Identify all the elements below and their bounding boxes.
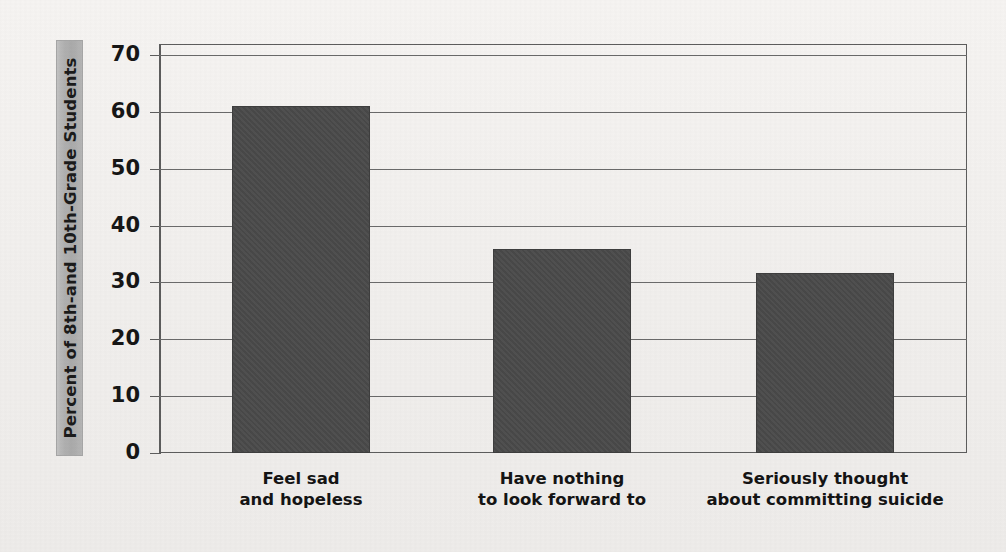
y-tick-50 bbox=[150, 169, 159, 170]
y-tick-10 bbox=[150, 396, 159, 397]
bar-3 bbox=[756, 273, 894, 453]
y-tick-20 bbox=[150, 339, 159, 340]
category-label-2: Have nothing to look forward to bbox=[412, 468, 712, 510]
bar-1 bbox=[232, 106, 370, 453]
y-axis-title: Percent of 8th-and 10th-Grade Students bbox=[60, 57, 79, 438]
y-tick-60 bbox=[150, 112, 159, 113]
category-label-1: Feel sad and hopeless bbox=[151, 468, 451, 510]
y-tick-label-70: 70 bbox=[96, 44, 140, 65]
y-tick-0 bbox=[150, 453, 159, 454]
y-tick-label-20: 20 bbox=[96, 328, 140, 349]
y-tick-label-50: 50 bbox=[96, 158, 140, 179]
y-tick-label-60: 60 bbox=[96, 101, 140, 122]
y-tick-label-10: 10 bbox=[96, 385, 140, 406]
category-label-3: Seriously thought about committing suici… bbox=[675, 468, 975, 510]
y-tick-label-0: 0 bbox=[96, 442, 140, 463]
plot-border-right bbox=[966, 44, 967, 453]
bar-chart-figure: Percent of 8th-and 10th-Grade Students 0… bbox=[0, 0, 1006, 552]
y-tick-label-40: 40 bbox=[96, 215, 140, 236]
y-tick-label-30: 30 bbox=[96, 271, 140, 292]
y-tick-40 bbox=[150, 226, 159, 227]
bar-2 bbox=[493, 249, 631, 453]
plot-area bbox=[159, 44, 967, 453]
plot-border-top bbox=[159, 44, 967, 45]
y-tick-70 bbox=[150, 55, 159, 56]
y-axis-title-band: Percent of 8th-and 10th-Grade Students bbox=[56, 40, 83, 456]
y-tick-30 bbox=[150, 282, 159, 283]
gridline-70 bbox=[159, 55, 967, 56]
